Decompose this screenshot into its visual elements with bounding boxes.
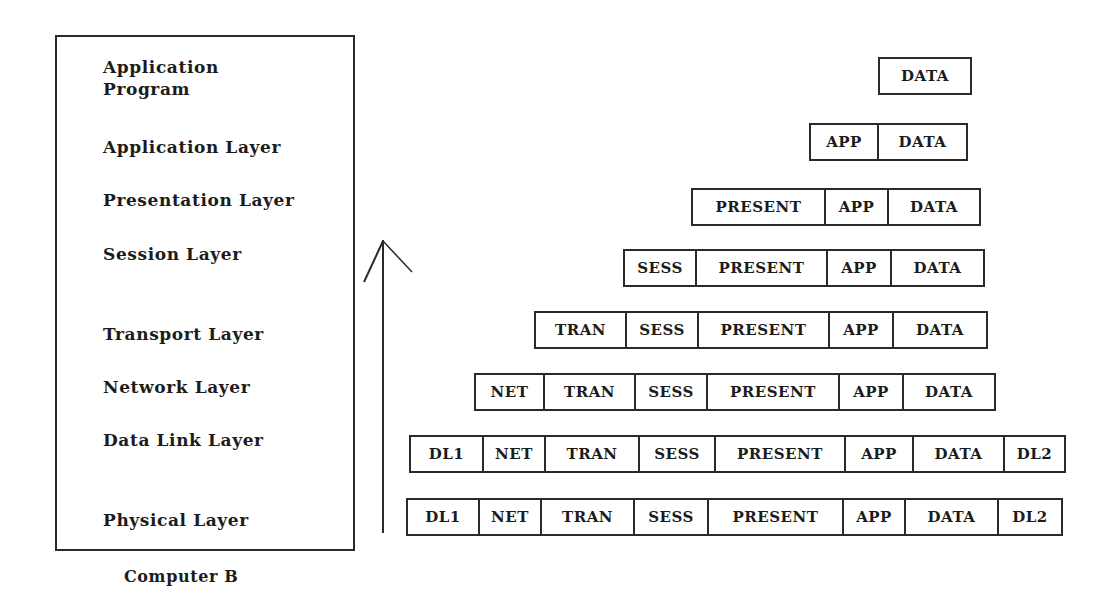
packet-header-data: DATA: [912, 435, 1005, 473]
packet-row: DATA: [878, 57, 972, 95]
packet-header-tran: TRAN: [540, 498, 635, 536]
packet-row: APPDATA: [809, 123, 968, 161]
packet-header-data: DATA: [902, 373, 996, 411]
packet-row: DL1NETTRANSESSPRESENTAPPDATADL2: [406, 498, 1063, 536]
packet-header-data: DATA: [887, 188, 981, 226]
packet-header-tran: TRAN: [543, 373, 636, 411]
packet-header-data: DATA: [878, 57, 972, 95]
packet-header-present: PRESENT: [695, 249, 828, 287]
packet-header-dl1: DL1: [406, 498, 480, 536]
packet-row: TRANSESSPRESENTAPPDATA: [534, 311, 988, 349]
packet-header-sess: SESS: [623, 249, 697, 287]
packet-header-tran: TRAN: [534, 311, 627, 349]
packet-header-data: DATA: [890, 249, 985, 287]
packet-header-app: APP: [844, 435, 914, 473]
packet-row: SESSPRESENTAPPDATA: [623, 249, 985, 287]
packet-header-app: APP: [838, 373, 904, 411]
packet-header-present: PRESENT: [697, 311, 830, 349]
packet-header-data: DATA: [892, 311, 988, 349]
packet-header-present: PRESENT: [714, 435, 846, 473]
packet-header-app: APP: [842, 498, 906, 536]
packet-header-sess: SESS: [633, 498, 709, 536]
packet-header-net: NET: [478, 498, 542, 536]
packet-header-sess: SESS: [625, 311, 699, 349]
packet-header-net: NET: [474, 373, 545, 411]
packet-header-dl1: DL1: [409, 435, 484, 473]
packet-header-app: APP: [824, 188, 889, 226]
packet-header-app: APP: [809, 123, 879, 161]
packet-header-app: APP: [826, 249, 892, 287]
packet-header-present: PRESENT: [691, 188, 826, 226]
packet-row: NETTRANSESSPRESENTAPPDATA: [474, 373, 996, 411]
packet-header-data: DATA: [877, 123, 968, 161]
packet-header-tran: TRAN: [544, 435, 640, 473]
packet-header-sess: SESS: [638, 435, 716, 473]
packet-header-net: NET: [482, 435, 546, 473]
packet-header-app: APP: [828, 311, 894, 349]
packet-header-present: PRESENT: [706, 373, 840, 411]
packet-row: PRESENTAPPDATA: [691, 188, 981, 226]
packet-header-present: PRESENT: [707, 498, 844, 536]
packet-header-dl2: DL2: [1003, 435, 1066, 473]
packet-header-dl2: DL2: [997, 498, 1063, 536]
packet-header-data: DATA: [904, 498, 999, 536]
packet-header-sess: SESS: [634, 373, 708, 411]
packet-row: DL1NETTRANSESSPRESENTAPPDATADL2: [409, 435, 1066, 473]
